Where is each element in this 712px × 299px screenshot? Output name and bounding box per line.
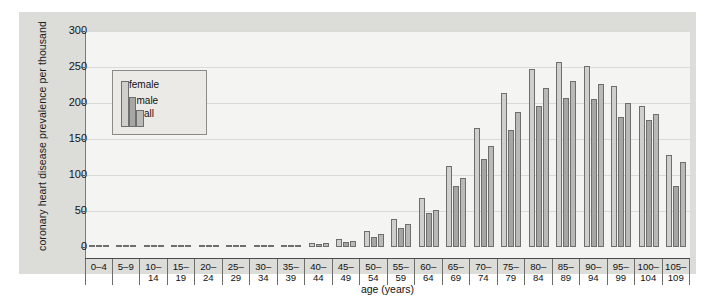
bar-female xyxy=(336,239,342,247)
y-tick-label-50: 50 xyxy=(27,204,87,216)
bar-male xyxy=(563,98,569,247)
x-tick-label: 65–69 xyxy=(443,259,471,285)
bar-all xyxy=(323,243,329,247)
y-tick-label-300: 300 xyxy=(27,24,87,36)
bar-all xyxy=(378,234,384,247)
bar-female xyxy=(254,245,260,247)
bar-female xyxy=(89,245,95,247)
bar-all xyxy=(130,245,136,247)
bar-female xyxy=(171,245,177,247)
bar-all xyxy=(295,245,301,247)
bar-female xyxy=(226,245,232,247)
x-tick-label: 45–49 xyxy=(333,259,361,285)
bar-all xyxy=(515,112,521,247)
y-tick-mark-100 xyxy=(81,175,85,176)
bar-male xyxy=(288,245,294,247)
bar-group xyxy=(278,43,306,259)
x-tick-label: 90–94 xyxy=(580,259,608,285)
bar-all xyxy=(185,245,191,247)
plot-area xyxy=(85,31,690,259)
bar-group xyxy=(415,43,443,259)
bar-female xyxy=(391,219,397,247)
bar-female xyxy=(639,106,645,247)
bar-all xyxy=(350,241,356,247)
x-tick-label: 60–64 xyxy=(415,259,443,285)
x-tick-label: 30–34 xyxy=(250,259,278,285)
x-tick-label: 95–99 xyxy=(608,259,636,285)
bar-all xyxy=(625,103,631,247)
x-tick-label: 5–9 xyxy=(113,259,141,285)
bar-male xyxy=(178,245,184,247)
bar-group xyxy=(663,43,691,259)
bar-all xyxy=(405,224,411,247)
y-tick-mark-50 xyxy=(81,211,85,212)
bar-female xyxy=(474,128,480,247)
bar-group xyxy=(360,43,388,259)
y-tick-label-0: 0 xyxy=(27,240,87,252)
bar-all xyxy=(460,178,466,247)
x-tick-label: 75–79 xyxy=(498,259,526,285)
y-tick-mark-300 xyxy=(81,31,85,32)
bar-all xyxy=(268,245,274,247)
bar-male xyxy=(618,117,624,247)
bar-group xyxy=(498,43,526,259)
bar-all xyxy=(158,245,164,247)
bar-all xyxy=(598,84,604,247)
x-axis-tick-labels: 0–45–910–1415–1920–2425–2930–3435–3940–4… xyxy=(85,259,690,285)
page-top-cutoff-text xyxy=(0,0,712,6)
y-tick-mark-200 xyxy=(81,103,85,104)
bar-group xyxy=(553,43,581,259)
bar-group xyxy=(85,43,113,259)
bar-female xyxy=(611,86,617,247)
x-tick-label: 10–14 xyxy=(140,259,168,285)
bar-male xyxy=(426,213,432,247)
y-tick-mark-0 xyxy=(81,247,85,248)
x-tick-label: 35–39 xyxy=(278,259,306,285)
x-tick-label: 40–44 xyxy=(305,259,333,285)
bar-group xyxy=(635,43,663,259)
legend-label-male: male xyxy=(137,95,159,106)
bar-all xyxy=(240,245,246,247)
x-tick-label: 55–59 xyxy=(388,259,416,285)
bar-all xyxy=(213,245,219,247)
bar-female xyxy=(116,245,122,247)
bar-group xyxy=(525,43,553,259)
bar-male xyxy=(96,245,102,247)
y-tick-label-100: 100 xyxy=(27,168,87,180)
bar-male xyxy=(398,228,404,247)
bar-all xyxy=(103,245,109,247)
legend-swatch-all xyxy=(136,110,144,127)
bar-male xyxy=(536,106,542,247)
legend-swatch-female xyxy=(121,81,129,127)
bar-female xyxy=(199,245,205,247)
bar-female xyxy=(144,245,150,247)
bar-male xyxy=(316,244,322,247)
bar-group xyxy=(443,43,471,259)
x-tick-label: 70–74 xyxy=(470,259,498,285)
bar-all xyxy=(543,88,549,247)
legend-label-all: all xyxy=(144,108,154,119)
bar-all xyxy=(680,162,686,247)
chart-figure: coronary heart disease prevalence per th… xyxy=(19,12,696,274)
bar-female xyxy=(281,245,287,247)
bar-male xyxy=(151,245,157,247)
bar-group xyxy=(250,43,278,259)
x-tick-label: 0–4 xyxy=(85,259,113,285)
bar-male xyxy=(673,186,679,247)
bar-female xyxy=(584,66,590,247)
legend: femalemaleall xyxy=(112,70,207,135)
legend-label-female: female xyxy=(129,79,159,90)
bar-all xyxy=(653,114,659,247)
bar-all xyxy=(433,210,439,247)
bar-female xyxy=(556,62,562,247)
x-tick-label: 105–109 xyxy=(663,259,691,285)
bar-group xyxy=(223,43,251,259)
bar-female xyxy=(364,231,370,247)
plot-inner xyxy=(85,31,690,259)
x-tick-label: 100–104 xyxy=(635,259,663,285)
bar-female xyxy=(501,93,507,247)
x-tick-label: 80–84 xyxy=(525,259,553,285)
bar-group xyxy=(470,43,498,259)
y-tick-label-200: 200 xyxy=(27,96,87,108)
bar-male xyxy=(591,99,597,247)
